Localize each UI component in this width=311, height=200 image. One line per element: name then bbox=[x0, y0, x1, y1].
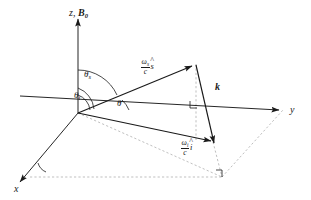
x-axis-label: x bbox=[14, 184, 18, 194]
k-vector-arrow bbox=[196, 65, 214, 143]
incident-tip-projection bbox=[213, 142, 222, 177]
x-axis-line bbox=[20, 113, 78, 182]
omega-i-symbol: ω bbox=[182, 138, 187, 147]
theta-s-label: θs bbox=[84, 70, 91, 80]
k-vector-label: k bbox=[215, 82, 220, 92]
diagram-canvas bbox=[0, 0, 311, 200]
y-axis-label: y bbox=[290, 105, 294, 115]
theta-i-label: θi bbox=[74, 91, 80, 101]
right-angle-markers bbox=[190, 101, 222, 177]
scattering-geometry-figure: z, B0 y x θs θi θ ωs c ^s ωi c ^i k bbox=[0, 0, 311, 200]
i-hat-accent: ^ bbox=[189, 138, 193, 146]
z-axis-label-b: B bbox=[78, 7, 85, 18]
incident-wavevector-numerator: ωi bbox=[181, 139, 189, 148]
theta-label: θ bbox=[117, 99, 122, 109]
x-axis-angle-arc bbox=[38, 163, 46, 172]
scattered-wavevector-numerator: ωs bbox=[141, 58, 150, 67]
z-axis-label: z, B0 bbox=[69, 8, 88, 19]
wavevector-arrows bbox=[78, 65, 214, 143]
scattered-wavevector-denominator: c bbox=[141, 67, 150, 76]
omega-s-symbol: ω bbox=[142, 57, 147, 66]
scattered-wavevector-fraction: ωs c bbox=[141, 58, 150, 76]
theta-s-subscript: s bbox=[88, 73, 91, 80]
y-axis-line bbox=[20, 96, 279, 110]
incident-wavevector-fraction: ωi c bbox=[181, 139, 189, 157]
ground-edge-right bbox=[222, 110, 283, 177]
scattered-wavevector-label: ωs c ^s bbox=[141, 58, 154, 76]
s-hat-unit-vector: ^s bbox=[150, 62, 154, 71]
i-hat-unit-vector: ^i bbox=[189, 143, 192, 152]
incident-wavevector-label: ωi c ^i bbox=[181, 139, 192, 157]
incident-wavevector-denominator: c bbox=[181, 148, 189, 157]
in-plane-projection-ray bbox=[78, 113, 222, 177]
theta-i-subscript: i bbox=[78, 94, 80, 101]
scattered-wavevector-arrow bbox=[78, 66, 192, 113]
z-axis-label-b-subscript: 0 bbox=[85, 12, 88, 19]
z-axis-label-separator: , bbox=[73, 7, 76, 18]
s-hat-accent: ^ bbox=[150, 57, 154, 65]
